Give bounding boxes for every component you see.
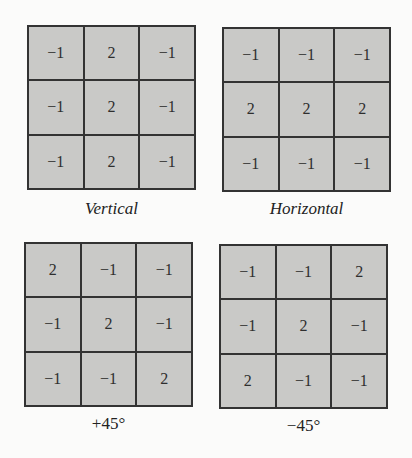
kernel-cell: −1 [220, 245, 276, 299]
kernel-cell: −1 [25, 352, 81, 406]
kernel-cell: −1 [223, 137, 279, 191]
kernel-cell: 2 [81, 297, 137, 351]
kernel-label: +45° [24, 414, 193, 434]
kernel-cell: −1 [279, 28, 335, 82]
kernel-cell: −1 [331, 299, 387, 353]
kernel-cell: −1 [220, 299, 276, 353]
kernel-cell: −1 [139, 80, 195, 134]
kernel-grid: 2 −1 −1 −1 2 −1 −1 −1 2 [24, 242, 193, 407]
kernel-vertical: −1 2 −1 −1 2 −1 −1 2 −1 Vertical [27, 25, 196, 190]
kernel-label: −45° [219, 416, 388, 436]
kernel-cell: 2 [279, 82, 335, 136]
kernel-cell: 2 [136, 352, 192, 406]
kernel-label: Horizontal [222, 199, 391, 219]
kernel-cell: −1 [25, 297, 81, 351]
kernel-horizontal: −1 −1 −1 2 2 2 −1 −1 −1 Horizontal [222, 27, 391, 192]
kernel-cell: −1 [331, 354, 387, 408]
kernel-cell: 2 [84, 26, 140, 80]
kernel-label: Vertical [27, 199, 196, 219]
kernel-grid: −1 −1 −1 2 2 2 −1 −1 −1 [222, 27, 391, 192]
kernel-cell: −1 [136, 297, 192, 351]
kernel-cell: −1 [279, 137, 335, 191]
kernel-cell: −1 [276, 354, 332, 408]
kernel-cell: 2 [331, 245, 387, 299]
kernel-cell: −1 [223, 28, 279, 82]
kernel-minus45: −1 −1 2 −1 2 −1 2 −1 −1 −45° [219, 244, 388, 409]
kernel-cell: 2 [220, 354, 276, 408]
kernel-cell: 2 [84, 80, 140, 134]
kernel-cell: 2 [276, 299, 332, 353]
kernel-cell: −1 [28, 80, 84, 134]
kernel-cell: 2 [25, 243, 81, 297]
kernel-cell: −1 [136, 243, 192, 297]
kernel-cell: −1 [334, 137, 390, 191]
kernel-cell: −1 [28, 26, 84, 80]
kernel-grid: −1 −1 2 −1 2 −1 2 −1 −1 [219, 244, 388, 409]
kernel-cell: 2 [334, 82, 390, 136]
kernel-cell: −1 [139, 135, 195, 189]
kernel-cell: −1 [81, 243, 137, 297]
kernel-cell: −1 [28, 135, 84, 189]
kernel-plus45: 2 −1 −1 −1 2 −1 −1 −1 2 +45° [24, 242, 193, 407]
kernel-cell: −1 [139, 26, 195, 80]
kernel-grid: −1 2 −1 −1 2 −1 −1 2 −1 [27, 25, 196, 190]
kernel-cell: −1 [81, 352, 137, 406]
kernel-cell: −1 [276, 245, 332, 299]
kernel-cell: 2 [84, 135, 140, 189]
kernel-cell: −1 [334, 28, 390, 82]
kernel-cell: 2 [223, 82, 279, 136]
